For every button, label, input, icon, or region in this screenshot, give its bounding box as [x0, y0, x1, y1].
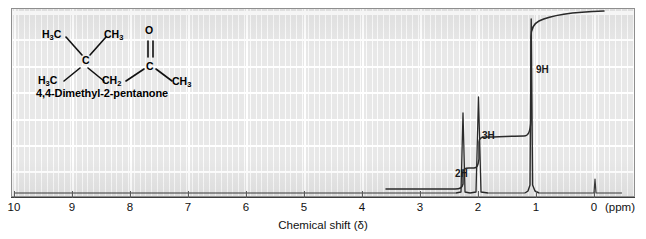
compound-name-label: 4,4-Dimethyl-2-pentanone — [36, 87, 168, 99]
integration-label-2h: 2H — [455, 169, 468, 179]
atom-label-carbonyl-carbon: C — [146, 61, 154, 72]
x-tick-label-1: 1 — [533, 201, 539, 213]
integration-curve — [386, 11, 604, 189]
x-tick-label-9: 9 — [69, 201, 75, 213]
peak-tbutyl-9h — [525, 19, 539, 193]
x-tick-8 — [130, 191, 131, 198]
atom-label-quaternary-carbon: C — [82, 55, 90, 66]
x-tick-2 — [478, 191, 479, 198]
bond-ccarbonyl-ch3 — [156, 69, 172, 81]
atom-label-ch3-top-left: H3C — [42, 29, 61, 42]
bond-ch3bl-c — [64, 68, 80, 81]
x-tick-label-8: 8 — [127, 201, 133, 213]
ppm-unit-label: (ppm) — [605, 201, 635, 213]
integration-label-9h: 9H — [536, 65, 549, 75]
x-tick-5 — [304, 191, 305, 198]
bond-ch3tl-c — [66, 37, 82, 55]
atom-label-ch3-right: CH3 — [172, 76, 191, 89]
x-tick-label-6: 6 — [243, 201, 249, 213]
bond-ch2-ccarbonyl — [126, 69, 144, 81]
x-tick-label-7: 7 — [185, 201, 191, 213]
atom-label-ch3-bottom-left: H3C — [38, 75, 57, 88]
x-tick-0 — [594, 191, 595, 198]
integration-label-3h: 3H — [482, 131, 495, 141]
x-tick-9 — [72, 191, 73, 198]
x-tick-label-5: 5 — [301, 201, 307, 213]
x-tick-1 — [536, 191, 537, 198]
x-tick-label-2: 2 — [475, 201, 481, 213]
x-axis-line — [11, 197, 635, 198]
atom-label-ch3-top-right: CH3 — [104, 29, 123, 42]
x-tick-label-10: 10 — [8, 201, 21, 213]
spectrum-plot-area: 2H 3H 9H — [11, 8, 635, 197]
x-tick-4 — [362, 191, 363, 198]
atom-label-ch2: CH2 — [102, 75, 121, 88]
x-tick-7 — [188, 191, 189, 198]
x-axis-title: Chemical shift (δ) — [0, 219, 646, 231]
x-tick-label-4: 4 — [359, 201, 365, 213]
x-tick-3 — [420, 191, 421, 198]
x-tick-10 — [14, 191, 15, 198]
x-tick-label-0: 0 — [591, 201, 597, 213]
x-tick-6 — [246, 191, 247, 198]
nmr-figure: 2H 3H 9H — [0, 0, 646, 239]
x-tick-label-3: 3 — [417, 201, 423, 213]
atom-label-oxygen: O — [145, 25, 153, 36]
peak-tms-reference — [592, 179, 622, 193]
